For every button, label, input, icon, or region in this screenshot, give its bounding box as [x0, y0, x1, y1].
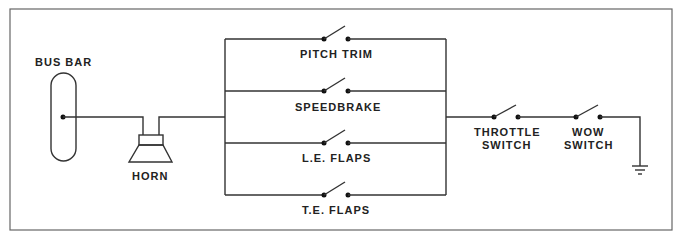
wow-switch-label-2: SWITCH — [564, 139, 613, 151]
ground-icon — [632, 166, 648, 174]
throttle-switch-label-2: SWITCH — [482, 139, 531, 151]
pitch-trim-switch — [225, 26, 446, 42]
diagram-frame — [10, 9, 672, 230]
le-flaps-switch — [225, 130, 446, 146]
speedbrake-label: SPEEDBRAKE — [295, 101, 381, 113]
horn-icon — [129, 135, 172, 162]
wow-switch-label-1: WOW — [572, 126, 604, 138]
horn-label: HORN — [132, 170, 168, 182]
te-flaps-switch — [225, 182, 446, 198]
wire-horn-to-bank — [159, 117, 225, 135]
wire-bus-to-horn — [63, 117, 143, 135]
horn-warning-circuit-diagram: BUS BAR HORN PITCH TRIM SPEEDBRAKE L.E. … — [0, 0, 680, 236]
bus-bar-label: BUS BAR — [35, 56, 92, 68]
te-flaps-label: T.E. FLAPS — [302, 204, 370, 216]
throttle-switch-label-1: THROTTLE — [474, 126, 541, 138]
throttle-switch — [492, 105, 577, 120]
pitch-trim-label: PITCH TRIM — [300, 48, 373, 60]
speedbrake-switch — [225, 78, 446, 94]
le-flaps-label: L.E. FLAPS — [302, 152, 371, 164]
